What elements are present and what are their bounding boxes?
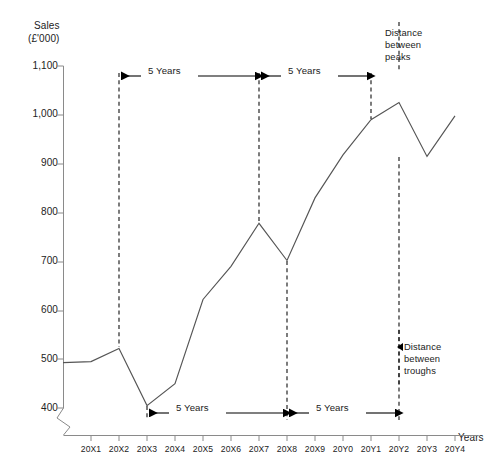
sales-cycle-line-chart: Sales (£'000) Years 1,100 1,000 900 800 … xyxy=(0,0,494,467)
y-tick-marks xyxy=(57,66,64,408)
troughs-note-arrowhead xyxy=(397,343,403,351)
troughs-note-arrow xyxy=(397,343,403,351)
axis-lines xyxy=(57,66,478,436)
reference-dashed-lines xyxy=(119,22,399,420)
x-tick-marks xyxy=(91,436,455,442)
axis-break-symbol xyxy=(57,408,70,435)
plot-canvas xyxy=(0,0,494,467)
